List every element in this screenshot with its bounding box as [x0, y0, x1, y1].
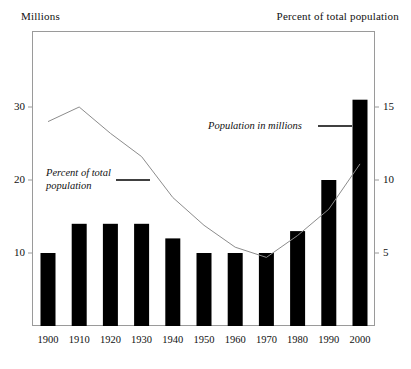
- year-label: 1980: [281, 334, 315, 345]
- right-axis-ticks: [375, 107, 379, 253]
- year-label: 1950: [187, 334, 221, 345]
- year-label: 1990: [312, 334, 346, 345]
- right-tick-label: 15: [383, 100, 411, 112]
- year-label: 1970: [249, 334, 283, 345]
- year-label: 1960: [218, 334, 252, 345]
- left-tick-label: 10: [1, 246, 25, 258]
- year-label: 1940: [156, 334, 190, 345]
- annotation-percent-line-1: Percent of total: [46, 167, 111, 180]
- annotation-population-in-millions: Population in millions: [208, 120, 302, 133]
- chart-figure: Millions Percent of total population 102…: [0, 0, 411, 369]
- right-tick-label: 10: [383, 173, 411, 185]
- right-tick-label: 5: [383, 246, 411, 258]
- left-tick-label: 20: [1, 173, 25, 185]
- year-label: 1900: [31, 334, 65, 345]
- year-label: 1920: [93, 334, 127, 345]
- year-label: 1910: [62, 334, 96, 345]
- annotation-percent-line-2: population: [46, 180, 111, 193]
- year-label: 1930: [125, 334, 159, 345]
- year-label: 2000: [343, 334, 377, 345]
- left-axis-caption: Millions: [21, 10, 60, 22]
- left-tick-label: 30: [1, 100, 25, 112]
- right-axis-caption: Percent of total population: [277, 10, 399, 22]
- annotation-percent-of-total-population: Percent of total population: [46, 167, 111, 192]
